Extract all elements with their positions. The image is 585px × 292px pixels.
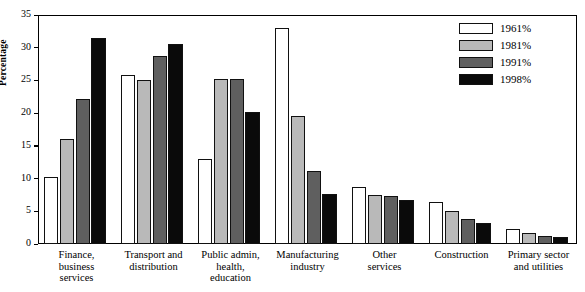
legend: 1961%1981%1991%1998% (459, 22, 569, 90)
bar (307, 171, 321, 244)
bar (214, 79, 228, 244)
x-axis-category-label: Transport anddistribution (109, 249, 198, 272)
legend-swatch (459, 74, 493, 85)
bar (399, 200, 413, 244)
x-axis-category-label: Construction (417, 249, 506, 261)
legend-item: 1998% (459, 73, 569, 87)
category-label-line: services (32, 272, 121, 284)
bar-group (115, 15, 192, 244)
x-axis-category-labels: Finance,businessservicesTransport anddis… (38, 249, 577, 292)
y-tick-label: 5 (7, 204, 31, 216)
bar (429, 202, 443, 244)
bar (384, 196, 398, 244)
bar (476, 223, 490, 244)
bar (522, 233, 536, 244)
x-axis-category-label: Otherservices (340, 249, 429, 272)
bar (153, 56, 167, 244)
y-tick-label: 25 (7, 73, 31, 85)
legend-item: 1981% (459, 39, 569, 53)
y-tick-label: 0 (7, 237, 31, 249)
x-axis-category-label: Public admin,health,education (186, 249, 275, 284)
category-label-line: and utilities (494, 261, 583, 273)
bar-group (38, 15, 115, 244)
x-axis-category-label: Primary sectorand utilities (494, 249, 583, 272)
bar (245, 112, 259, 244)
y-tick-label: 35 (7, 8, 31, 20)
bar (291, 116, 305, 244)
bar (461, 219, 475, 244)
bar (553, 237, 567, 244)
category-label-line: Manufacturing (263, 249, 352, 261)
bar (137, 80, 151, 244)
bar-group (192, 15, 269, 244)
legend-label: 1998% (500, 74, 531, 85)
category-label-line: Construction (417, 249, 506, 261)
y-tick-label: 10 (7, 172, 31, 184)
legend-swatch (459, 57, 493, 68)
bar (445, 211, 459, 244)
bar (352, 187, 366, 244)
category-label-line: industry (263, 261, 352, 273)
bar (168, 44, 182, 244)
legend-item: 1961% (459, 22, 569, 36)
category-label-line: health, (186, 261, 275, 273)
bar (322, 194, 336, 244)
category-label-line: business (32, 261, 121, 273)
y-tick-label: 15 (7, 139, 31, 151)
category-label-line: Primary sector (494, 249, 583, 261)
y-tick-label: 30 (7, 41, 31, 53)
bar (230, 79, 244, 244)
bar (91, 38, 105, 244)
bar (538, 236, 552, 245)
y-tick-label: 20 (7, 106, 31, 118)
category-label-line: Other (340, 249, 429, 261)
bar (368, 195, 382, 244)
x-axis-category-label: Manufacturingindustry (263, 249, 352, 272)
category-label-line: Public admin, (186, 249, 275, 261)
category-label-line: services (340, 261, 429, 273)
category-label-line: Finance, (32, 249, 121, 261)
bar (60, 139, 74, 244)
category-label-line: distribution (109, 261, 198, 273)
legend-item: 1991% (459, 56, 569, 70)
bar (121, 75, 135, 244)
legend-label: 1981% (500, 40, 531, 51)
bar-chart: Percentage 05101520253035 Finance,busine… (0, 0, 585, 292)
bar (506, 229, 520, 244)
bar (275, 28, 289, 244)
legend-swatch (459, 40, 493, 51)
bar (44, 177, 58, 244)
legend-swatch (459, 23, 493, 34)
category-label-line: education (186, 272, 275, 284)
x-axis-category-label: Finance,businessservices (32, 249, 121, 284)
bar-group (346, 15, 423, 244)
legend-label: 1991% (500, 57, 531, 68)
bar (198, 159, 212, 244)
legend-label: 1961% (500, 23, 531, 34)
bar-group (269, 15, 346, 244)
bar (76, 99, 90, 244)
category-label-line: Transport and (109, 249, 198, 261)
